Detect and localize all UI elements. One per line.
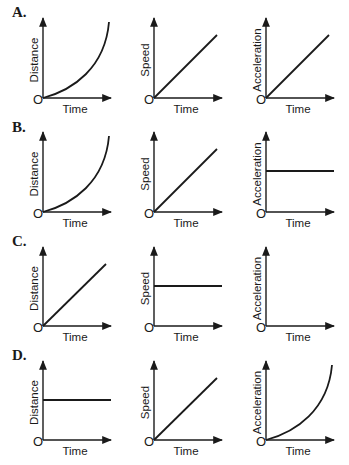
x-axis-label: Time bbox=[285, 217, 310, 229]
x-axis-label: Time bbox=[173, 103, 198, 115]
y-axis-label: Distance bbox=[28, 38, 40, 83]
y-axis-label: Acceleration bbox=[251, 28, 263, 91]
y-axis-label: Distance bbox=[28, 266, 40, 311]
x-axis-label: Time bbox=[62, 217, 87, 229]
y-axis-label: Speed bbox=[139, 157, 151, 190]
x-axis-label: Time bbox=[62, 103, 87, 115]
graph-c-acceleration: OTimeAcceleration bbox=[251, 247, 334, 343]
x-axis-label: Time bbox=[173, 445, 198, 457]
graph-a-speed: OTimeSpeed bbox=[139, 18, 222, 115]
graph-a-acceleration: OTimeAcceleration bbox=[251, 18, 334, 115]
origin-label: O bbox=[144, 206, 154, 221]
origin-label: O bbox=[256, 434, 266, 449]
y-axis-label: Distance bbox=[28, 380, 40, 425]
plot-line bbox=[43, 136, 109, 212]
graph-d-distance: OTimeDistance bbox=[28, 361, 111, 457]
y-axis-label: Acceleration bbox=[251, 257, 263, 320]
plot-line bbox=[266, 365, 332, 440]
origin-label: O bbox=[144, 434, 154, 449]
graph-d-acceleration: OTimeAcceleration bbox=[251, 361, 334, 457]
x-axis-label: Time bbox=[285, 103, 310, 115]
origin-label: O bbox=[33, 92, 43, 107]
y-axis-label: Speed bbox=[139, 386, 151, 419]
motion-graphs-diagram: A. B. C. D. OTimeDistanceOTimeSpeedOTime… bbox=[0, 0, 349, 465]
origin-label: O bbox=[33, 320, 43, 335]
y-axis-label: Speed bbox=[139, 43, 151, 76]
origin-label: O bbox=[144, 320, 154, 335]
graph-c-distance: OTimeDistance bbox=[28, 247, 111, 343]
plot-line bbox=[154, 378, 217, 440]
y-axis-label: Acceleration bbox=[251, 142, 263, 205]
origin-label: O bbox=[256, 320, 266, 335]
x-axis-label: Time bbox=[285, 331, 310, 343]
y-axis-label: Distance bbox=[28, 152, 40, 197]
origin-label: O bbox=[256, 206, 266, 221]
plot-line bbox=[43, 264, 106, 326]
x-axis-label: Time bbox=[173, 217, 198, 229]
plot-line bbox=[43, 22, 109, 98]
origin-label: O bbox=[256, 92, 266, 107]
y-axis-label: Acceleration bbox=[251, 371, 263, 434]
plot-line bbox=[266, 35, 329, 98]
x-axis-label: Time bbox=[285, 445, 310, 457]
origin-label: O bbox=[33, 206, 43, 221]
graph-b-acceleration: OTimeAcceleration bbox=[251, 132, 334, 229]
origin-label: O bbox=[33, 434, 43, 449]
x-axis-label: Time bbox=[62, 331, 87, 343]
graph-a-distance: OTimeDistance bbox=[28, 18, 111, 115]
plot-line bbox=[154, 149, 217, 212]
graph-grid: OTimeDistanceOTimeSpeedOTimeAcceleration… bbox=[0, 0, 349, 465]
graph-c-speed: OTimeSpeed bbox=[139, 247, 222, 343]
plot-line bbox=[154, 35, 217, 98]
graph-b-speed: OTimeSpeed bbox=[139, 132, 222, 229]
graph-b-distance: OTimeDistance bbox=[28, 132, 111, 229]
y-axis-label: Speed bbox=[139, 272, 151, 305]
origin-label: O bbox=[144, 92, 154, 107]
x-axis-label: Time bbox=[173, 331, 198, 343]
graph-d-speed: OTimeSpeed bbox=[139, 361, 222, 457]
x-axis-label: Time bbox=[62, 445, 87, 457]
